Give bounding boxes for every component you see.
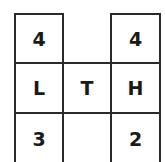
grid-cell-r0c2[interactable]: 4: [110, 13, 161, 64]
grid-cell-r1c1[interactable]: T: [62, 62, 112, 114]
cell-label: 4: [129, 28, 142, 50]
cell-label: T: [81, 77, 94, 99]
cell-label: 4: [32, 28, 45, 50]
cell-label: H: [128, 77, 144, 99]
cell-label: L: [33, 77, 45, 99]
grid-cell-r0c0[interactable]: 4: [14, 13, 64, 64]
grid-cell-r2c1[interactable]: [62, 112, 112, 162]
grid-cell-r2c0[interactable]: 3: [14, 112, 64, 162]
grid-cell-r2c2[interactable]: 2: [110, 112, 161, 162]
cell-label: 3: [32, 128, 45, 150]
grid-cell-r1c2[interactable]: H: [110, 62, 161, 114]
cell-label: 2: [129, 128, 142, 150]
grid-cell-r1c0[interactable]: L: [14, 62, 64, 114]
